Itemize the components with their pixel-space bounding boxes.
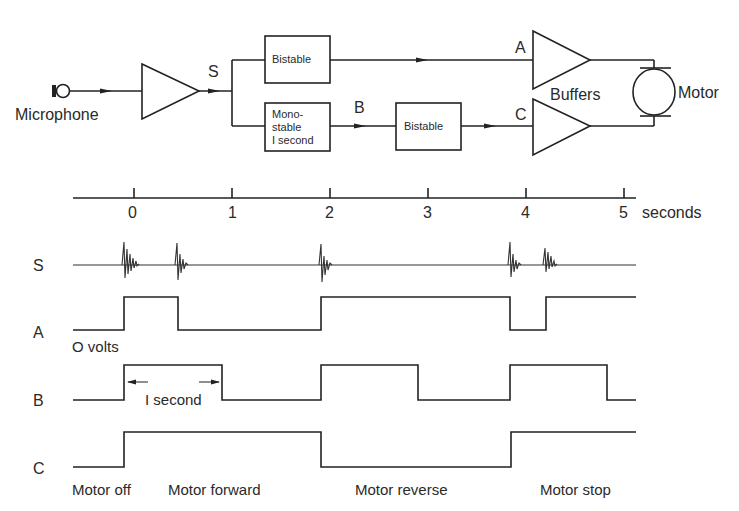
sound-pulse (122, 242, 139, 278)
sound-pulse (543, 248, 557, 272)
motor-label: Motor (678, 85, 719, 101)
tick-label-3: 3 (423, 205, 432, 221)
tick-label-4: 4 (521, 205, 530, 221)
amplifier-icon (142, 64, 199, 119)
state-motor-stop: Motor stop (540, 482, 611, 497)
trace-label-a: A (33, 325, 44, 341)
one-second-label: I second (145, 392, 202, 407)
monostable-line-2: stable (272, 121, 314, 134)
monostable-line-1: Mono- (272, 108, 314, 121)
microphone-label: Microphone (15, 107, 99, 123)
diagram-canvas (0, 0, 739, 511)
tick-label-1: 1 (228, 205, 237, 221)
one-second-dimension (127, 380, 220, 385)
state-motor-reverse: Motor reverse (355, 482, 448, 497)
state-motor-forward: Motor forward (168, 482, 261, 497)
tick-label-2: 2 (325, 205, 334, 221)
trace-c (73, 432, 636, 467)
signal-s-label: S (208, 64, 219, 80)
tick-label-5: 5 (619, 205, 628, 221)
microphone-icon (52, 85, 70, 98)
sound-pulse (319, 244, 332, 282)
monostable-line-3: I second (272, 134, 314, 147)
zero-volts-label: O volts (72, 339, 119, 354)
time-axis (73, 188, 636, 198)
signal-b-label: B (354, 100, 365, 116)
trace-label-b: B (33, 393, 44, 409)
signal-c-label: C (515, 107, 527, 123)
buffer-c-icon (533, 99, 590, 155)
trace-label-c: C (33, 461, 45, 477)
motor-icon (633, 68, 675, 116)
arrow-icon (484, 124, 496, 129)
buffer-a-icon (533, 31, 590, 89)
axis-unit-label: seconds (642, 205, 702, 221)
arrow-icon (354, 124, 366, 129)
bistable-top-label: Bistable (272, 53, 311, 66)
state-motor-off: Motor off (72, 482, 131, 497)
trace-label-s: S (33, 258, 44, 274)
bistable-bottom-label: Bistable (404, 120, 443, 133)
tick-label-0: 0 (128, 205, 137, 221)
sound-pulse (508, 242, 521, 277)
trace-s (73, 242, 636, 282)
arrow-icon (208, 89, 220, 94)
monostable-label: Mono- stable I second (272, 108, 314, 147)
sound-pulse (175, 243, 188, 280)
trace-a (73, 297, 636, 330)
buffers-label: Buffers (550, 87, 600, 103)
arrow-icon (416, 58, 428, 63)
signal-a-label: A (515, 40, 526, 56)
